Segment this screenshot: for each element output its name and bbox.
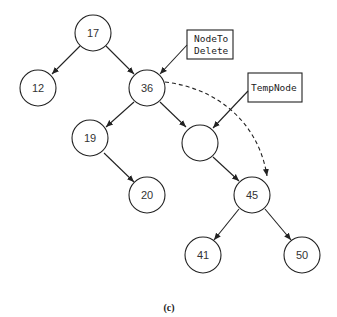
- edge-empty-45: [213, 157, 239, 181]
- figure-caption: (c): [163, 302, 174, 314]
- node-12: 12: [20, 70, 56, 106]
- node-36: 36: [129, 70, 165, 106]
- edge-45-50: [265, 209, 291, 240]
- node-45: 45: [234, 177, 270, 213]
- edge-19-20: [104, 153, 134, 182]
- node-empty: [182, 125, 218, 161]
- temp-node-label: TempNode: [251, 82, 297, 93]
- node-to-delete-label-2: Delete: [194, 45, 229, 56]
- node-36-label: 36: [141, 82, 153, 94]
- bst-diagram: NodeTo Delete TempNode 17 12 36 19 20: [0, 0, 337, 317]
- node-20-label: 20: [141, 189, 153, 201]
- tree-nodes: 17 12 36 19 20 45 41 5: [20, 15, 320, 273]
- edge-17-12: [52, 46, 80, 74]
- node-12-label: 12: [32, 82, 44, 94]
- node-41-label: 41: [197, 249, 209, 261]
- node-to-delete-label-1: NodeTo: [194, 33, 229, 44]
- edge-45-41: [214, 209, 239, 240]
- node-20: 20: [129, 177, 165, 213]
- edge-36-empty: [160, 102, 186, 127]
- node-41: 41: [185, 237, 221, 273]
- node-to-delete-pointer: NodeTo Delete: [160, 30, 233, 74]
- edge-36-19: [106, 102, 134, 127]
- node-50: 50: [284, 237, 320, 273]
- node-17: 17: [75, 15, 111, 51]
- temp-node-arrow: [213, 91, 248, 128]
- node-19-label: 19: [84, 132, 96, 144]
- edge-17-36: [106, 46, 134, 74]
- node-19: 19: [72, 120, 108, 156]
- node-45-label: 45: [246, 189, 258, 201]
- node-17-label: 17: [87, 27, 99, 39]
- node-50-label: 50: [296, 249, 308, 261]
- temp-node-pointer: TempNode: [213, 73, 302, 128]
- node-to-delete-arrow: [160, 45, 187, 74]
